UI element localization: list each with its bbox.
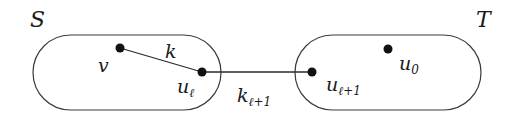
node-dot [116,44,125,53]
node-dot [308,68,317,77]
node-label-u-0: u0 [399,52,419,77]
node-dot [198,68,207,77]
node-u-0: u0 [384,45,420,78]
node-label-u-l1: uℓ+1 [326,73,361,98]
node-label-v: v [98,54,109,76]
node-u-l: uℓ [177,68,207,101]
cut-diagram: S T k kℓ+1 v uℓ uℓ+1 u0 [0,0,515,116]
node-u-l1: uℓ+1 [308,68,361,99]
region-s-label: S [30,7,45,32]
edge-label-k: k [165,40,177,62]
edge-line [120,48,202,72]
region-t: T [295,7,493,110]
region-t-label: T [476,7,493,32]
edge-label-k: kℓ+1 [237,84,271,109]
node-dot [384,45,393,54]
edge-v-ul: k [120,40,202,72]
node-label-u-l: uℓ [177,75,194,100]
node-v: v [98,44,125,77]
